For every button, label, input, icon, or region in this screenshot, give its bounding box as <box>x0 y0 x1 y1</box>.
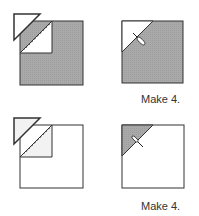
step2-caption: Make 4. <box>141 200 180 212</box>
step2-before <box>14 118 83 188</box>
step1-after <box>122 21 183 83</box>
step1-caption: Make 4. <box>141 93 180 105</box>
step1-before <box>14 14 83 85</box>
step2-after <box>122 125 184 188</box>
